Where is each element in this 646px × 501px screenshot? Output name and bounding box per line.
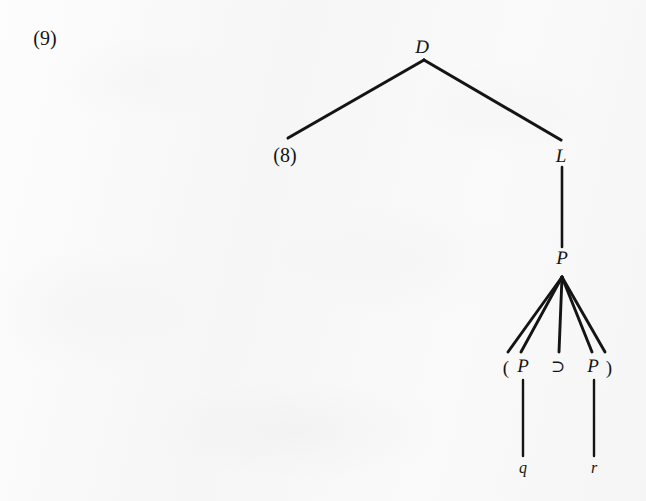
- node-l: L: [556, 147, 567, 166]
- figure-page: (9) D (8) L P ( P ⊃ P ) q r: [0, 0, 646, 501]
- edge-d-to-ref8: [288, 60, 424, 138]
- terminal-r: r: [591, 460, 597, 476]
- edge-p-to-rparen: [562, 277, 605, 352]
- tree-edges: [0, 0, 646, 501]
- edge-p-to-p-right: [562, 277, 592, 352]
- node-p-left: P: [517, 357, 529, 376]
- edge-p-to-operator: [559, 277, 562, 352]
- node-root-d: D: [415, 38, 429, 57]
- node-horseshoe-operator: ⊃: [551, 358, 565, 375]
- node-left-paren: (: [503, 358, 509, 377]
- node-reference-8: (8): [273, 145, 296, 165]
- edge-d-to-l: [424, 60, 561, 140]
- terminal-q: q: [519, 460, 527, 476]
- node-p-right: P: [587, 357, 599, 376]
- edge-p-to-lparen: [508, 277, 562, 352]
- node-right-paren: ): [606, 358, 612, 377]
- figure-number: (9): [33, 28, 56, 48]
- edge-p-to-p-left: [521, 277, 562, 352]
- node-p: P: [556, 249, 568, 268]
